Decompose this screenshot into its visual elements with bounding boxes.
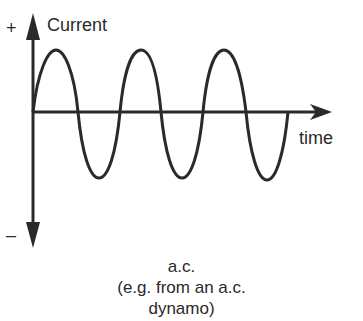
caption-line-3: dynamo) [0, 298, 363, 319]
sine-wave [33, 50, 288, 180]
caption-line-1: a.c. [0, 256, 363, 277]
y-axis-up-arrow-icon [26, 13, 40, 40]
y-axis-down-arrow-icon [26, 222, 40, 248]
positive-sign: + [6, 18, 17, 39]
caption-line-2: (e.g. from an a.c. [0, 277, 363, 298]
negative-sign: – [6, 225, 16, 246]
y-axis-label: Current [47, 15, 107, 36]
x-axis-label: time [299, 128, 333, 149]
caption: a.c. (e.g. from an a.c. dynamo) [0, 256, 363, 319]
